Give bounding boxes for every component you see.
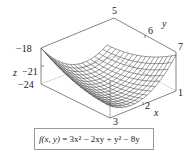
equation-box: f(x, y) = 3x² − 2xy + y² − 8y: [34, 128, 154, 150]
x-tick-2: 2: [145, 101, 150, 111]
z-tick-18: −18: [16, 44, 32, 54]
equation-lhs: f(x, y): [39, 134, 60, 144]
y-tick-7: 7: [178, 42, 183, 52]
equation-rhs: 3x² − 2xy + y² − 8y: [70, 134, 140, 144]
z-tick-24: −24: [18, 80, 34, 90]
x-axis-label: x: [154, 108, 158, 118]
equation-equals: =: [62, 134, 69, 144]
y-axis-label: y: [162, 19, 166, 29]
y-tick-5: 5: [112, 6, 117, 16]
y-tick-6: 6: [148, 26, 153, 36]
x-tick-3: 3: [113, 117, 118, 127]
z-tick-21: −21: [22, 67, 38, 77]
x-tick-1: 1: [178, 88, 183, 98]
z-axis-label: z: [13, 68, 17, 78]
